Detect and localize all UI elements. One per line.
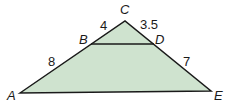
- triangle-diagram: C B D A E 4 3.5 8 7: [0, 0, 229, 108]
- length-de: 7: [183, 54, 190, 69]
- length-cd: 3.5: [140, 17, 158, 32]
- label-vertex-b: B: [79, 32, 88, 47]
- length-bc: 4: [100, 18, 107, 33]
- length-ab: 8: [48, 54, 55, 69]
- label-vertex-c: C: [120, 2, 130, 17]
- label-vertex-d: D: [155, 32, 164, 47]
- label-vertex-a: A: [6, 88, 16, 103]
- label-vertex-e: E: [214, 88, 223, 103]
